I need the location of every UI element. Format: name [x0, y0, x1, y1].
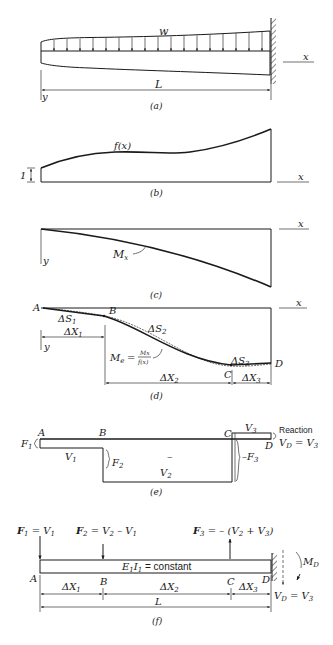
segment-label-X2: ΔX2 [159, 581, 179, 594]
reaction-label-VD: VD = V3 [274, 590, 314, 603]
svg-text:f(x): f(x) [137, 358, 149, 366]
label-negF3: –F3 [242, 451, 259, 464]
svg-text:=: = [127, 352, 135, 363]
y-axis-label: y [43, 341, 50, 352]
distributed-load-arrows [54, 32, 262, 52]
curve-label-Mx: Mx [112, 248, 128, 262]
unit-label: 1 [20, 170, 26, 181]
x-axis-label: x [298, 218, 304, 229]
x-axis-label: x [303, 51, 309, 62]
point-C: C [224, 369, 232, 380]
caption-f: (f) [152, 616, 163, 626]
brace-F2 [106, 450, 110, 468]
moment-label-MD: MD [302, 556, 319, 569]
moment-MD-arrow [297, 574, 300, 580]
panel-a: w x L y (a) [41, 18, 314, 111]
stiffness-function-curve [41, 129, 271, 168]
label-leader [133, 246, 146, 254]
moment-curve [41, 229, 271, 287]
load-label-w: w [159, 25, 169, 38]
segment-label-X3: ΔX3 [238, 581, 258, 594]
label-V1: V1 [65, 451, 77, 464]
segment-label-X1: ΔX1 [61, 581, 81, 594]
panel-f: F1 = V1 F2 = V2 – V1 F3 = – (V2 + V3) E1… [16, 525, 319, 626]
panel-b: f(x) 1 x (b) [20, 129, 309, 198]
length-label-L: L [154, 596, 162, 607]
label-V2: V2 [160, 467, 172, 480]
label-F2: F2 [111, 457, 124, 470]
fixed-wall-hatch [272, 553, 277, 581]
brace-F3 [236, 440, 240, 481]
panel-d: A B C D ΔS1 ΔS2 ΔS3 y x ΔX1 ΔX2 ΔX3 Me =… [32, 297, 307, 401]
x-axis-label: x [296, 297, 302, 308]
formula-leader [153, 349, 162, 358]
point-D: D [261, 574, 270, 585]
force-F3-label: F3 = – (V2 + V3) [192, 525, 274, 538]
y-axis-label: y [42, 255, 49, 266]
elastic-moment-formula: Me = Mx f(x) [109, 349, 162, 366]
length-label-L: L [154, 78, 162, 91]
fixed-wall-hatch [271, 18, 276, 84]
caption-e: (e) [150, 487, 163, 497]
caption-b: (b) [150, 188, 163, 198]
svg-text:Mx: Mx [139, 349, 150, 356]
caption-a: (a) [150, 101, 163, 111]
label-F1: F1 [20, 438, 32, 451]
x-axis-label: x [298, 171, 304, 182]
point-B: B [108, 305, 116, 316]
moment-MD-arc-top [296, 552, 301, 568]
brace-reaction [273, 433, 276, 439]
minus-sign: – [167, 450, 173, 463]
svg-text:Me: Me [109, 352, 124, 365]
beam-stiffness-label: E1I1 = constant [121, 561, 192, 574]
point-B: B [98, 427, 106, 438]
point-D: D [264, 440, 273, 451]
point-A: A [37, 427, 45, 438]
panel-c: y x Mx (c) [41, 218, 309, 300]
beam-analysis-figure: w x L y (a) f(x) 1 x (b) y x Mx [0, 0, 333, 645]
reaction-label: Reaction [279, 425, 313, 435]
point-A: A [29, 573, 37, 584]
point-C: C [224, 428, 232, 439]
force-F2-label: F2 = V2 – V1 [75, 525, 137, 538]
point-B-marker [103, 315, 105, 317]
panel-e: A B C D F1 V1 F2 – V2 –F3 V3 Reaction VD… [20, 422, 319, 497]
brace-F1 [34, 439, 38, 448]
point-D: D [274, 358, 283, 369]
force-F1-label: F1 = V1 [16, 525, 55, 538]
arc-label-S1: ΔS1 [57, 313, 77, 326]
arc-label-S2: ΔS2 [147, 323, 167, 336]
point-B: B [99, 576, 107, 587]
point-C: C [227, 576, 235, 587]
y-axis-label: y [41, 91, 48, 102]
caption-c: (c) [150, 290, 163, 300]
point-A: A [32, 302, 40, 313]
caption-d: (d) [150, 391, 163, 401]
curve-label-fx: f(x) [113, 140, 131, 151]
reaction-VD: VD = V3 [279, 437, 319, 450]
